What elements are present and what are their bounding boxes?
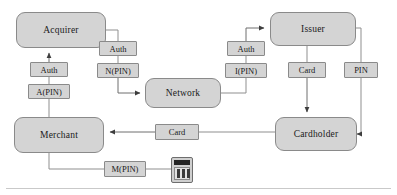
node-network[interactable]: Network [145, 78, 221, 108]
node-cardholder-label: Cardholder [294, 129, 339, 139]
pin-pad-key-column-2 [182, 169, 185, 178]
wire-merchant-to-mpin [49, 153, 104, 169]
message-m-pin[interactable]: M(PIN) [104, 161, 146, 177]
message-pin-issuer-label: PIN [354, 65, 368, 75]
pin-pad-key-column-1 [177, 169, 180, 178]
node-network-label: Network [166, 88, 201, 98]
message-auth-acquirer-label: Auth [41, 65, 58, 75]
message-card-issuer[interactable]: Card [288, 62, 326, 78]
wire-auth-to-issuer [246, 28, 264, 41]
node-cardholder[interactable]: Cardholder [275, 117, 357, 151]
footer-rule [6, 188, 391, 189]
message-auth-network-label: Auth [110, 44, 127, 54]
pin-pad-terminal-icon [171, 157, 193, 183]
wire-pin-down [361, 78, 362, 134]
message-auth-network[interactable]: Auth [99, 41, 137, 56]
wire-npin-to-network [118, 78, 140, 93]
node-merchant-label: Merchant [40, 130, 78, 140]
node-issuer[interactable]: Issuer [270, 12, 356, 46]
message-i-pin[interactable]: I(PIN) [225, 63, 267, 78]
message-i-pin-label: I(PIN) [235, 66, 257, 76]
wire-network-to-ipin [221, 78, 246, 93]
node-issuer-label: Issuer [301, 24, 325, 34]
diagram-canvas: Acquirer Network Issuer Merchant Cardhol… [0, 0, 397, 195]
message-card-merchant[interactable]: Card [155, 124, 199, 140]
message-card-merchant-label: Card [169, 127, 186, 137]
message-m-pin-label: M(PIN) [112, 164, 139, 174]
pin-pad-key-column-3 [187, 169, 190, 178]
message-auth-issuer-label: Auth [238, 44, 255, 54]
wire-issuer-to-pin [356, 28, 361, 62]
message-n-pin-label: N(PIN) [105, 66, 131, 76]
node-acquirer[interactable]: Acquirer [16, 12, 106, 48]
message-n-pin[interactable]: N(PIN) [97, 63, 139, 78]
message-a-pin-label: A(PIN) [36, 87, 62, 97]
node-merchant[interactable]: Merchant [14, 117, 104, 153]
message-card-issuer-label: Card [299, 65, 316, 75]
message-auth-acquirer[interactable]: Auth [30, 62, 68, 77]
message-a-pin[interactable]: A(PIN) [28, 84, 70, 99]
message-auth-issuer[interactable]: Auth [227, 41, 265, 56]
pin-pad-screen [174, 160, 190, 165]
message-pin-issuer[interactable]: PIN [344, 62, 378, 78]
pin-pad-keys [174, 167, 190, 180]
node-acquirer-label: Acquirer [43, 25, 78, 35]
